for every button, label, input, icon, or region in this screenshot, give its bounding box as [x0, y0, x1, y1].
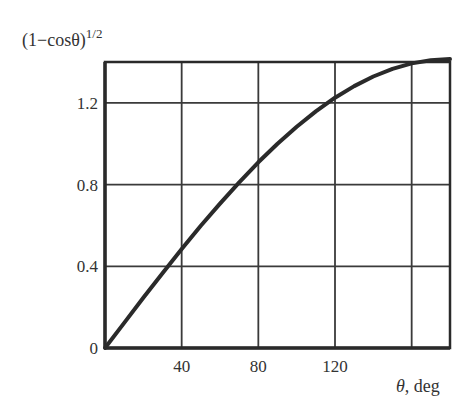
x-axis-label: θ, deg: [396, 376, 440, 396]
plot-frame: [105, 62, 450, 348]
chart: 00.40.81.2 4080120 (1−cosθ)1/2 θ, deg: [0, 0, 475, 414]
y-tick-label: 0.4: [77, 257, 99, 276]
x-tick-label: 80: [250, 357, 267, 376]
y-tick-label: 0.8: [77, 176, 98, 195]
y-tick-labels: 00.40.81.2: [77, 94, 99, 358]
y-tick-label: 0: [90, 339, 99, 358]
x-tick-label: 40: [173, 357, 190, 376]
x-tick-labels: 4080120: [173, 357, 348, 376]
y-tick-label: 1.2: [77, 94, 98, 113]
grid-lines: [105, 62, 450, 348]
x-tick-label: 120: [322, 357, 348, 376]
y-axis-label: (1−cosθ)1/2: [22, 26, 102, 51]
